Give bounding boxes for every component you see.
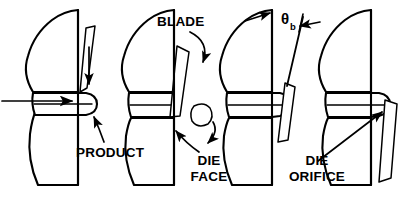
die-body-upper-p1 xyxy=(26,10,78,92)
blade-label: BLADE xyxy=(157,14,205,29)
die-face-cutting-diagram: BLADE PRODUCT DIE FACE DIE ORIFICE θ b xyxy=(0,0,414,201)
die-body-upper-p3 xyxy=(220,10,272,92)
die-orifice-label-line1: DIE xyxy=(305,153,328,168)
die-body-lower-p1 xyxy=(29,110,78,185)
blade-angle-symbol: θ xyxy=(281,10,289,27)
severed-pellet-p2 xyxy=(191,104,212,126)
blade-angle-subscript: b xyxy=(290,21,296,32)
die-orifice-label-line2: ORIFICE xyxy=(289,169,345,184)
panel-3-angle xyxy=(220,10,303,185)
blade-p1 xyxy=(80,26,95,92)
die-body-lower-p3 xyxy=(223,118,272,185)
die-body-upper-p4 xyxy=(319,10,371,92)
figure-canvas: BLADE PRODUCT DIE FACE DIE ORIFICE θ b xyxy=(0,0,414,201)
blade-angle-leader-line xyxy=(300,22,320,26)
product-label: PRODUCT xyxy=(76,145,145,160)
product-leader-line xyxy=(94,117,104,142)
die-face-leader-line xyxy=(176,131,199,152)
blade-leader-line xyxy=(190,32,205,62)
die-face-label-line2: FACE xyxy=(191,169,228,184)
panel-4-regrowth xyxy=(319,10,397,185)
die-face-label-line1: DIE xyxy=(197,153,220,168)
pellet-trajectory-arrow xyxy=(208,122,215,143)
